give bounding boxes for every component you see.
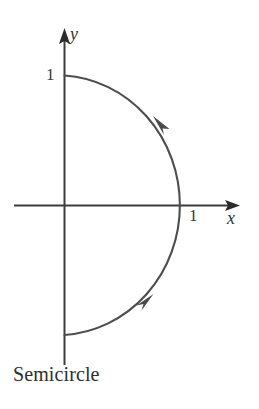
figure-caption: Semicircle — [13, 364, 100, 384]
semicircle-figure: y x 1 1 Semicircle — [0, 0, 259, 409]
y-axis-tick-label-1: 1 — [46, 66, 55, 83]
x-axis-tick-label-1: 1 — [189, 207, 198, 224]
y-axis-label: y — [70, 25, 78, 43]
upper-direction-arrow-icon — [153, 116, 170, 135]
x-axis-label: x — [227, 209, 235, 227]
figure-canvas — [0, 0, 259, 409]
